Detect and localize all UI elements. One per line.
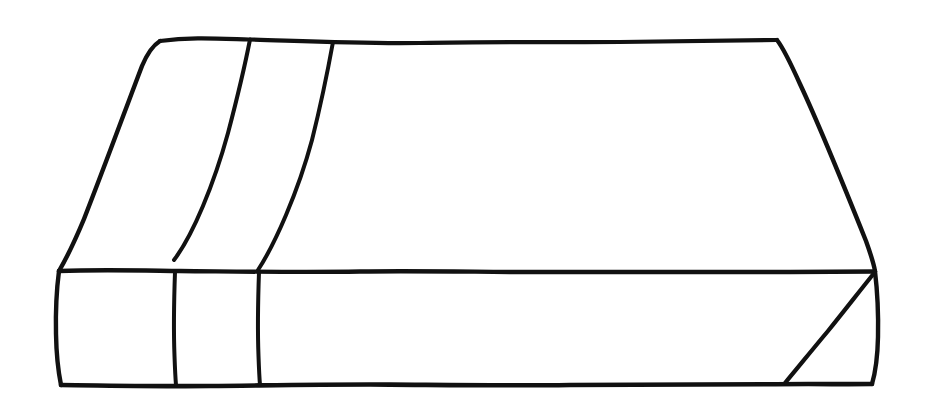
front-divider-group bbox=[174, 272, 260, 385]
front-top-edge bbox=[59, 270, 875, 272]
top-face-group bbox=[59, 38, 875, 271]
box-sketch-figure: Hand-drawn line sketch of a rectangular … bbox=[0, 0, 928, 412]
front-face-group bbox=[56, 270, 878, 386]
top-right-slant-edge bbox=[777, 40, 875, 271]
top-divider-line-1 bbox=[174, 40, 250, 261]
corner-diagonal-line bbox=[785, 272, 875, 383]
corner-diagonal-group bbox=[785, 272, 875, 383]
top-back-edge bbox=[160, 38, 777, 43]
front-left-edge bbox=[56, 271, 61, 385]
sketch-canvas: Hand-drawn line sketch of a rectangular … bbox=[0, 0, 928, 412]
front-right-edge bbox=[872, 272, 878, 385]
front-bottom-edge bbox=[61, 384, 872, 386]
top-divider-line-2 bbox=[258, 42, 333, 270]
front-divider-line-1 bbox=[174, 272, 176, 385]
top-left-slant-edge bbox=[59, 41, 160, 271]
front-divider-line-2 bbox=[258, 272, 260, 385]
top-divider-group bbox=[174, 40, 333, 271]
